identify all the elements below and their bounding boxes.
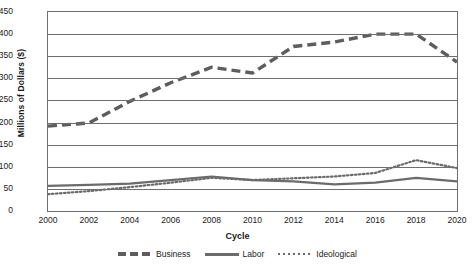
y-tick-label: 150 — [0, 140, 13, 149]
legend-label: Ideological — [316, 249, 357, 259]
gridline — [48, 34, 457, 35]
legend-swatch-labor — [205, 253, 239, 256]
y-tick-label: 200 — [0, 118, 13, 127]
chart-container: Millions of Dollars ($) 0501001502002503… — [0, 0, 475, 269]
series-line-business — [48, 34, 457, 126]
legend-label: Labor — [243, 249, 265, 259]
y-tick-label: 100 — [0, 162, 13, 171]
x-axis-title: Cycle — [0, 231, 475, 241]
gridline — [48, 189, 457, 190]
y-tick-label: 400 — [0, 29, 13, 38]
legend-item-ideological[interactable]: Ideological — [278, 249, 357, 259]
gridline — [48, 78, 457, 79]
y-tick-label: 350 — [0, 51, 13, 60]
y-tick-label: 450 — [0, 7, 13, 16]
y-tick-label: 0 — [0, 206, 13, 215]
y-tick-label: 250 — [0, 95, 13, 104]
legend-item-business[interactable]: Business — [118, 249, 191, 259]
x-tick-label: 2020 — [432, 216, 475, 225]
y-axis-title: Millions of Dollars ($) — [16, 28, 26, 158]
y-tick-label: 50 — [0, 184, 13, 193]
legend-swatch-ideological — [278, 253, 312, 255]
series-line-labor — [48, 177, 457, 186]
y-tick-label: 300 — [0, 73, 13, 82]
chart-legend: BusinessLaborIdeological — [0, 249, 475, 259]
legend-label: Business — [156, 249, 191, 259]
gridline — [48, 100, 457, 101]
legend-item-labor[interactable]: Labor — [205, 249, 265, 259]
series-layer — [48, 12, 457, 211]
plot-area — [47, 11, 458, 212]
gridline — [48, 145, 457, 146]
legend-swatch-business — [118, 252, 152, 256]
gridline — [48, 167, 457, 168]
gridline — [48, 123, 457, 124]
gridline — [48, 56, 457, 57]
